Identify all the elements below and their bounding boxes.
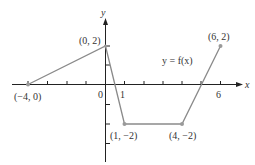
- tick-1-label: 1: [120, 89, 125, 100]
- point-label-0-2: (0, 2): [79, 35, 101, 47]
- point-label-1-neg2: (1, −2): [110, 130, 137, 142]
- y-axis-label: y: [100, 7, 106, 18]
- function-label: y = f(x): [162, 55, 193, 67]
- point-label-4-neg2: (4, −2): [169, 130, 196, 142]
- point-label-6-2: (6, 2): [208, 31, 230, 43]
- y-axis-arrow-icon: [103, 18, 108, 25]
- x-axis-label: x: [244, 79, 250, 90]
- function-graph: y x 0 1 6 y = f(x) (−4, 0) (0, 2) (1, −2…: [0, 0, 255, 165]
- point-label-neg4-0: (−4, 0): [14, 91, 41, 103]
- tick-6-label: 6: [216, 89, 221, 100]
- x-axis-arrow-icon: [236, 82, 243, 87]
- origin-label: 0: [98, 89, 103, 100]
